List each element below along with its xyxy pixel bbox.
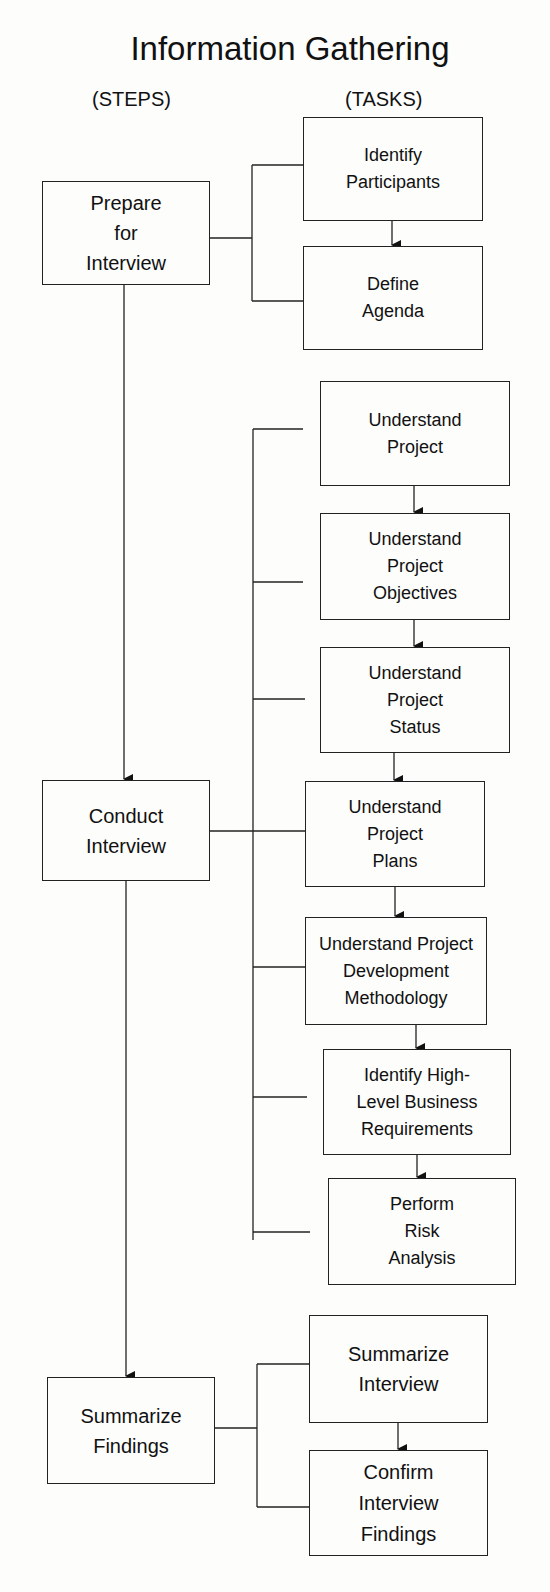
step-prepare-for-interview: Prepare for Interview xyxy=(42,181,210,285)
task-understand-project-objectives: Understand Project Objectives xyxy=(320,513,510,620)
task-perform-risk-analysis: Perform Risk Analysis xyxy=(328,1178,516,1285)
task-understand-project-status: Understand Project Status xyxy=(320,647,510,753)
task-understand-project: Understand Project xyxy=(320,381,510,486)
task-understand-project-development-methodology: Understand Project Development Methodolo… xyxy=(305,917,487,1025)
task-identify-participants: Identify Participants xyxy=(303,117,483,221)
step-conduct-interview: Conduct Interview xyxy=(42,780,210,881)
task-define-agenda: Define Agenda xyxy=(303,246,483,350)
task-identify-high-level-business-requirements: Identify High- Level Business Requiremen… xyxy=(323,1049,511,1155)
task-confirm-interview-findings: Confirm Interview Findings xyxy=(309,1450,488,1556)
task-summarize-interview: Summarize Interview xyxy=(309,1315,488,1423)
task-understand-project-plans: Understand Project Plans xyxy=(305,781,485,887)
step-summarize-findings: Summarize Findings xyxy=(47,1377,215,1484)
